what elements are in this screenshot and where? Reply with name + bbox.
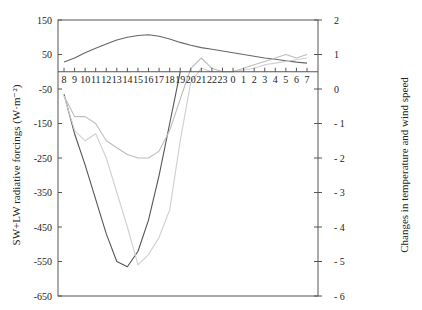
series-line bbox=[64, 55, 307, 159]
y-right-tick-label: 2 bbox=[334, 15, 339, 26]
y-right-tick-label: 1 bbox=[334, 49, 339, 60]
y-left-tick-label: -150 bbox=[34, 118, 52, 129]
x-tick-label: 2 bbox=[252, 74, 257, 85]
y-right-tick-label: - 5 bbox=[334, 256, 345, 267]
series-line bbox=[64, 35, 307, 63]
x-tick-label: 1 bbox=[241, 74, 246, 85]
y-axis-left-title: SW+LW radiative forcings (W·m⁻²) bbox=[10, 84, 23, 245]
x-tick-label: 6 bbox=[294, 74, 299, 85]
x-tick-label: 16 bbox=[144, 74, 154, 85]
x-tick-label: 0 bbox=[231, 74, 236, 85]
series-line bbox=[64, 72, 180, 267]
y-left-tick-label: -350 bbox=[34, 187, 52, 198]
y-left-tick-label: -550 bbox=[34, 256, 52, 267]
x-tick-label: 23 bbox=[217, 74, 227, 85]
x-tick-label: 14 bbox=[122, 74, 132, 85]
x-tick-label: 11 bbox=[91, 74, 101, 85]
x-tick-label: 18 bbox=[165, 74, 175, 85]
x-tick-label: 12 bbox=[101, 74, 111, 85]
y-left-tick-label: 150 bbox=[37, 15, 52, 26]
y-right-tick-label: - 2 bbox=[334, 153, 345, 164]
x-tick-label: 20 bbox=[186, 74, 196, 85]
x-tick-label: 13 bbox=[112, 74, 122, 85]
y-left-tick-label: -250 bbox=[34, 153, 52, 164]
x-tick-label: 15 bbox=[133, 74, 143, 85]
x-tick-label: 3 bbox=[262, 74, 267, 85]
x-tick-label: 8 bbox=[62, 74, 67, 85]
x-tick-label: 22 bbox=[207, 74, 217, 85]
x-tick-label: 19 bbox=[175, 74, 185, 85]
x-tick-label: 17 bbox=[154, 74, 164, 85]
y-left-tick-label: -450 bbox=[34, 222, 52, 233]
y-axis-right: 210- 1- 2- 3- 4- 5- 6 bbox=[314, 15, 345, 302]
y-left-tick-label: -50 bbox=[39, 84, 52, 95]
x-axis: 89101112131415161718192021222301234567 bbox=[58, 68, 318, 85]
x-tick-label: 9 bbox=[72, 74, 77, 85]
x-tick-label: 21 bbox=[196, 74, 206, 85]
series-line bbox=[64, 58, 307, 265]
x-tick-label: 4 bbox=[273, 74, 278, 85]
x-tick-label: 7 bbox=[305, 74, 310, 85]
y-left-tick-label: -650 bbox=[34, 291, 52, 302]
plot-frame bbox=[58, 20, 318, 296]
y-right-tick-label: 0 bbox=[334, 84, 339, 95]
x-tick-label: 5 bbox=[283, 74, 288, 85]
y-axis-right-title: Changes in temperature and wind speed bbox=[398, 77, 410, 253]
y-right-tick-label: - 3 bbox=[334, 187, 345, 198]
y-right-tick-label: - 6 bbox=[334, 291, 345, 302]
y-right-tick-label: - 1 bbox=[334, 118, 345, 129]
chart: 89101112131415161718192021222301234567 1… bbox=[0, 0, 422, 310]
series-layer bbox=[64, 35, 307, 267]
x-tick-label: 10 bbox=[80, 74, 90, 85]
y-left-tick-label: 50 bbox=[42, 49, 52, 60]
y-right-tick-label: - 4 bbox=[334, 222, 345, 233]
